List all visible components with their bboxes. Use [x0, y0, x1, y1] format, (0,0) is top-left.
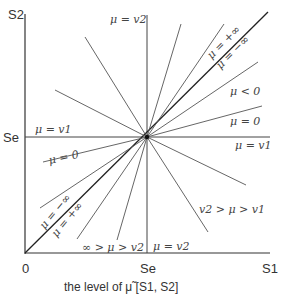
label-mu-v1-right: μ = v1 [235, 140, 272, 151]
ray-lower-right-1 [147, 137, 246, 185]
diagram-caption: the level of μ̃ [S1, S2] [64, 281, 178, 293]
ray-lower-left-3 [77, 137, 147, 239]
label-mu-v2-top: μ = v2 [110, 14, 147, 25]
origin-label: 0 [22, 262, 29, 275]
ray-lower-left-4 [117, 137, 147, 240]
label-mu-v2-bottom: μ = v2 [153, 241, 190, 252]
label-mu-lt-0: μ < 0 [230, 86, 260, 97]
se-x-label: Se [140, 262, 156, 275]
label-mu-v1-left: μ = v1 [35, 124, 72, 135]
ray-upper-right-1 [147, 24, 181, 137]
ray-upper-left-1 [85, 37, 147, 137]
label-inf-gt-mu-gt-v2: ∞ > μ > v2 [82, 242, 144, 253]
label-mu-0-right: μ = 0 [230, 116, 260, 127]
label-v2-gt-mu-gt-v1: v2 > μ > v1 [199, 204, 265, 215]
ray-upper-right-2 [147, 24, 224, 137]
center-point [145, 135, 149, 139]
se-y-label: Se [3, 131, 19, 144]
ray-lower-right-2 [147, 137, 208, 232]
ray-lower-left-2 [40, 137, 147, 208]
x-axis-label: S1 [262, 262, 278, 275]
y-axis-label: S2 [8, 8, 24, 21]
